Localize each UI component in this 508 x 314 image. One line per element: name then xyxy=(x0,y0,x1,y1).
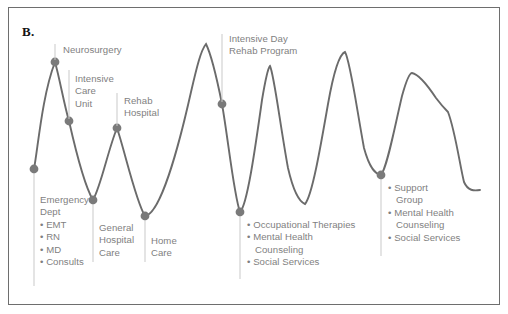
annotation-community-services-2: Support Group Mental Health Counseling S… xyxy=(388,182,460,244)
annotation-neurosurgery: Neurosurgery xyxy=(63,44,122,56)
annotation-community-services-1: Occupational Therapies Mental Health Cou… xyxy=(247,219,355,269)
list-item: Support Group xyxy=(388,182,460,207)
list-item: RN xyxy=(40,231,89,243)
list-item: Consults xyxy=(40,256,89,268)
list-item: MD xyxy=(40,244,89,256)
list-item: Mental Health Counseling xyxy=(388,207,460,232)
marker-community-services-2 xyxy=(377,171,386,180)
annotation-intensive-day-rehab: Intensive Day Rehab Program xyxy=(229,33,297,58)
marker-general-hospital-care xyxy=(89,196,98,205)
marker-emergency-dept xyxy=(30,165,39,174)
annotation-rehab-hospital: Rehab Hospital xyxy=(124,95,159,120)
annotation-emergency-dept-bullets: EMT RN MD Consults xyxy=(40,219,89,269)
list-item: Occupational Therapies xyxy=(247,219,355,231)
annotation-general-hospital-care: General Hospital Care xyxy=(99,222,134,259)
annotation-emergency-dept: Emergency Dept EMT RN MD Consults xyxy=(40,194,89,268)
annotation-community-services-2-bullets: Support Group Mental Health Counseling S… xyxy=(388,182,460,244)
annotation-emergency-dept-headline: Emergency Dept xyxy=(40,194,89,219)
annotation-home-care: Home Care xyxy=(151,235,177,260)
marker-community-services-1 xyxy=(236,208,245,217)
annotation-intensive-care-unit: Intensive Care Unit xyxy=(75,73,114,110)
marker-home-care xyxy=(141,212,150,221)
list-item: Mental Health Counseling xyxy=(247,231,355,256)
list-item: EMT xyxy=(40,219,89,231)
list-item: Social Services xyxy=(247,256,355,268)
annotation-community-services-1-bullets: Occupational Therapies Mental Health Cou… xyxy=(247,219,355,269)
figure-page: B. Neurosurgery xyxy=(0,0,508,314)
list-item: Social Services xyxy=(388,232,460,244)
